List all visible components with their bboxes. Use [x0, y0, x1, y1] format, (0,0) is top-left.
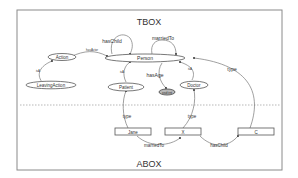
- edge-label-type-1: type: [123, 114, 132, 119]
- edge-label-haschild: hasChild: [102, 38, 122, 44]
- node-doctor[interactable]: Doctor: [180, 81, 208, 89]
- svg-text:Patient: Patient: [119, 85, 134, 90]
- node-x[interactable]: X: [165, 128, 201, 135]
- svg-text:X: X: [181, 130, 184, 135]
- svg-text:LeavingAction: LeavingAction: [37, 83, 66, 88]
- edge-label-isa-2: isA: [120, 70, 124, 74]
- edge-label-type-3: type: [227, 66, 237, 72]
- node-patient[interactable]: Patient: [108, 83, 144, 91]
- svg-text:Doctor: Doctor: [187, 83, 201, 88]
- edge-label-isa-1: isA: [36, 69, 40, 73]
- node-xsd-int[interactable]: xsd:int: [159, 89, 175, 95]
- edge-label-marriedto-2: marriedTo: [144, 143, 165, 148]
- svg-text:Person: Person: [137, 55, 153, 61]
- tbox-abox-diagram: TBOX ABOX hasChild marriedTo hasActor is…: [0, 0, 298, 178]
- node-action[interactable]: Action: [48, 54, 76, 61]
- edge-label-marriedto: marriedTo: [152, 35, 174, 41]
- svg-text:Action: Action: [56, 55, 69, 60]
- edge-label-hasage: hasAge: [147, 72, 164, 78]
- abox-title: ABOX: [136, 159, 161, 169]
- svg-text:xsd:int: xsd:int: [162, 91, 172, 95]
- edge-label-type-2: type: [188, 114, 197, 119]
- node-jane[interactable]: Jane: [115, 128, 151, 135]
- node-leavingaction[interactable]: LeavingAction: [26, 81, 76, 89]
- tbox-title: TBOX: [137, 17, 162, 27]
- node-c[interactable]: C: [238, 128, 274, 135]
- node-person[interactable]: Person: [105, 54, 185, 62]
- svg-text:Jane: Jane: [128, 130, 138, 135]
- edge-label-haschild-2: hasChild: [210, 143, 228, 148]
- edge-label-isa-3: isA: [188, 67, 192, 71]
- edge-label-hasactor: hasActor: [86, 48, 98, 52]
